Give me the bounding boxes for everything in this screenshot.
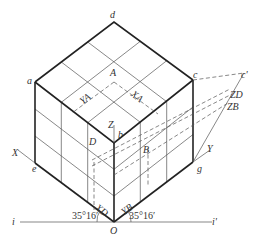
line-label-i-prime: i' [212,216,218,227]
coord-label-ZB: ZB [227,101,239,112]
angle-label-right: 35°16′ [129,210,155,221]
axis-label-Y: Y [207,143,214,154]
vertex-label-c-prime: c' [241,69,248,80]
vertex-label-e: e [32,163,37,174]
x-axis-line [18,150,35,163]
point-label-A: A [109,67,117,78]
coord-label-YA: YA [77,90,93,106]
point-label-B: B [143,144,149,155]
vertex-label-a: a [27,75,32,86]
vertex-label-b: b [118,129,123,140]
vertex-label-O: O [110,225,117,236]
axis-label-X: X [11,147,19,158]
right-face-grid [114,102,193,203]
point-label-D: D [88,136,97,147]
vertex-label-d: d [110,9,116,20]
coord-label-XA: XA [128,88,146,105]
isometric-cube-diagram: d a c c' b e g O A D B X Y Z YA XA XD YB… [0,0,260,243]
angle-label-left: 35°16′ [72,210,98,221]
line-label-i: i [12,216,15,227]
g-to-c-prime-line [193,73,244,162]
coord-label-ZD: ZD [230,89,244,100]
vertex-label-c: c [193,69,198,80]
axis-label-Z: Z [108,119,114,130]
vertex-label-g: g [197,163,202,174]
cube-outline [35,22,193,222]
left-face-grid [35,102,114,202]
